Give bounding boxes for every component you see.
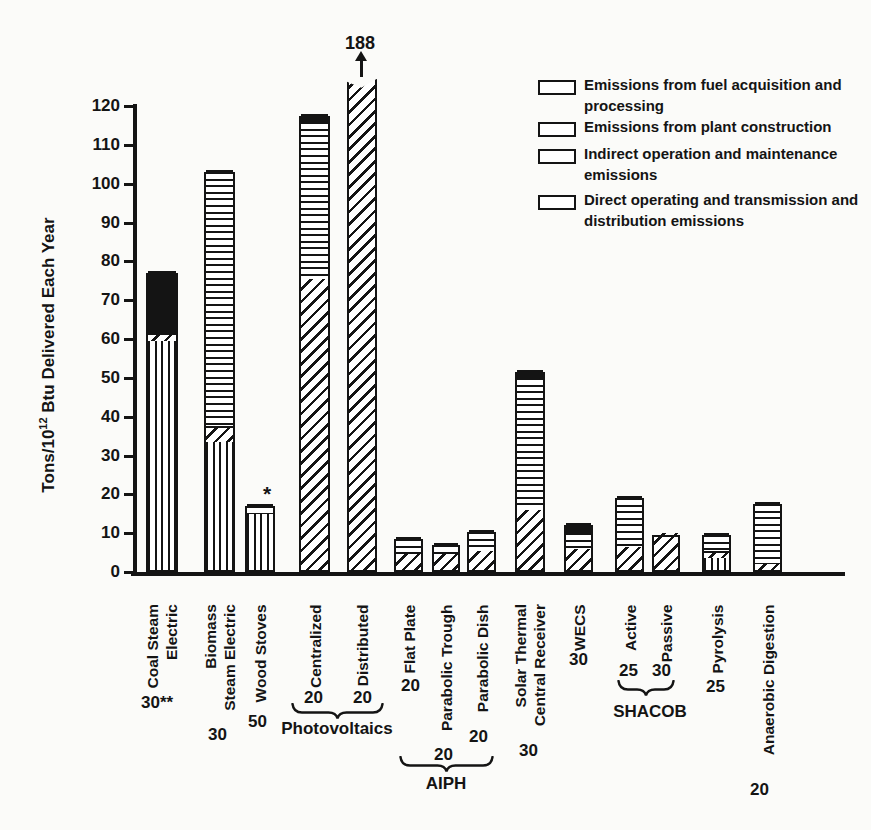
bar-segment-indirect — [517, 376, 543, 510]
bar-segment-direct — [566, 523, 591, 531]
bar-segment-construction — [148, 333, 176, 341]
y-tick-label-120: 120 — [74, 96, 120, 116]
legend-swatch-direct — [538, 195, 576, 210]
y-tick-label-40: 40 — [74, 407, 120, 427]
lifetime-note-biomass-steam-electric: 30 — [208, 725, 227, 745]
y-axis-title: Tons/1012 Btu Delivered Each Year — [37, 165, 59, 545]
group-label-shacob: SHACOB — [613, 702, 687, 722]
bar-segment-direct — [517, 370, 543, 376]
bar-segment-direct — [148, 271, 176, 333]
x-label-coal-steam-electric: Coal SteamElectric — [143, 604, 181, 774]
y-tick-mark-30 — [124, 455, 133, 458]
bar-segment-indirect — [704, 533, 729, 550]
bar-segment-fuel — [148, 341, 176, 570]
lifetime-note-anaerobic-digestion: 20 — [750, 780, 769, 800]
bar-segment-construction — [206, 426, 233, 442]
y-tick-label-50: 50 — [74, 368, 120, 388]
lifetime-note-aiph-flat-plate: 20 — [401, 676, 420, 696]
bar-coal-steam-electric — [146, 273, 178, 572]
y-tick-mark-80 — [124, 260, 133, 263]
bar-segment-fuel — [247, 514, 273, 570]
bar-wood-stoves — [245, 506, 275, 572]
legend-swatch-indirect — [538, 149, 576, 164]
y-tick-mark-40 — [124, 416, 133, 419]
bar-segment-construction — [517, 510, 543, 570]
bar-segment-construction — [434, 554, 458, 570]
bar-segment-indirect — [566, 531, 591, 548]
y-tick-label-70: 70 — [74, 290, 120, 310]
y-tick-mark-110 — [124, 144, 133, 147]
bar-photovoltaics-distributed — [347, 79, 377, 572]
bar-shacob-active — [615, 498, 644, 572]
bar-segment-fuel — [206, 442, 233, 570]
y-tick-label-90: 90 — [74, 213, 120, 233]
bar-segment-indirect — [301, 120, 328, 279]
bar-segment-construction — [301, 279, 328, 570]
y-tick-mark-10 — [124, 532, 133, 535]
bar-shacob-passive — [652, 535, 680, 572]
y-tick-mark-100 — [124, 183, 133, 186]
group-label-aiph: AIPH — [426, 774, 467, 794]
bar-segment-indirect — [617, 496, 642, 546]
bar-aiph-flat-plate — [394, 539, 423, 572]
bar-segment-construction — [566, 549, 591, 570]
y-tick-label-100: 100 — [74, 174, 120, 194]
bar-segment-construction — [617, 547, 642, 570]
lifetime-note-coal-steam-electric: 30** — [141, 693, 173, 713]
truncation-arrow-head — [355, 51, 367, 61]
x-axis-line — [131, 572, 845, 576]
y-tick-mark-60 — [124, 338, 133, 341]
legend-swatch-construction — [538, 122, 576, 137]
emissions-bar-chart: Tons/1012 Btu Delivered Each Year 010203… — [0, 0, 871, 830]
y-tick-label-110: 110 — [74, 135, 120, 155]
y-tick-mark-50 — [124, 377, 133, 380]
x-label-anaerobic-digestion: Anaerobic Digestion — [758, 604, 777, 774]
bar-segment-indirect — [396, 537, 421, 554]
legend-label-construction: Emissions from plant construction — [584, 116, 832, 137]
lifetime-note-wood-stoves: 50 — [248, 712, 267, 732]
x-label-aiph-parabolic-dish: Parabolic Dish — [472, 604, 491, 774]
bar-segment-indirect — [755, 502, 780, 564]
bar-anaerobic-digestion — [753, 504, 782, 572]
bar-segment-construction — [755, 564, 780, 570]
bar-segment-construction — [396, 554, 421, 570]
brace-shacob — [617, 680, 675, 701]
bar-segment-direct — [301, 114, 328, 120]
x-label-wood-stoves: Wood Stoves — [251, 604, 270, 774]
y-axis-title-superscript: 12 — [37, 417, 49, 429]
bar-segment-fuel — [704, 558, 729, 570]
lifetime-note-shacob-active: 25 — [619, 661, 638, 681]
x-label-biomass-steam-electric: BiomassSteam Electric — [201, 604, 239, 774]
bar-segment-indirect — [469, 530, 494, 551]
bar-aiph-parabolic-trough — [432, 545, 460, 572]
y-tick-label-80: 80 — [74, 251, 120, 271]
x-label-wecs: WECS — [569, 604, 588, 774]
bar-segment-construction — [349, 77, 375, 570]
legend-swatch-fuel — [538, 80, 576, 95]
y-tick-label-60: 60 — [74, 329, 120, 349]
y-tick-mark-0 — [124, 571, 133, 574]
bar-biomass-steam-electric — [204, 172, 235, 572]
truncation-arrow-shaft — [360, 60, 363, 77]
bar-segment-construction — [469, 551, 494, 570]
bar-segment-indirect — [206, 170, 233, 426]
bar-wecs — [564, 525, 593, 572]
lifetime-note-pyrolysis: 25 — [706, 677, 725, 697]
y-tick-mark-120 — [124, 105, 133, 108]
y-tick-mark-90 — [124, 222, 133, 225]
bar-photovoltaics-centralized — [299, 116, 330, 572]
y-tick-label-30: 30 — [74, 446, 120, 466]
legend-label-fuel: Emissions from fuel acquisition and proc… — [584, 74, 871, 116]
bar-pyrolysis — [702, 535, 731, 572]
wood-stoves-asterisk: * — [263, 482, 271, 506]
group-label-photovoltaics: Photovoltaics — [281, 719, 392, 739]
y-tick-label-0: 0 — [74, 562, 120, 582]
legend-label-indirect: Indirect operation and maintenance emiss… — [584, 143, 871, 185]
lifetime-note-shacob-passive: 30 — [652, 661, 671, 681]
bar-segment-construction — [704, 551, 729, 559]
lifetime-note-solar-thermal-central-receiver: 30 — [519, 741, 538, 761]
y-axis-line — [133, 104, 137, 576]
bar-segment-construction — [654, 533, 678, 570]
bar-aiph-parabolic-dish — [467, 532, 496, 572]
lifetime-note-wecs: 30 — [569, 650, 588, 670]
